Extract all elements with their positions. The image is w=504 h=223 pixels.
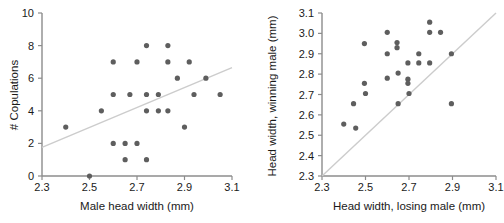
data-point (187, 59, 192, 64)
data-point (99, 108, 104, 113)
data-point (111, 59, 116, 64)
data-point (416, 60, 421, 65)
data-point (134, 59, 139, 64)
data-point (144, 92, 149, 97)
right-plot-area (252, 0, 504, 223)
data-point (394, 40, 399, 45)
data-point (123, 141, 128, 146)
data-point (427, 20, 432, 25)
data-point (394, 45, 399, 50)
trend-line (42, 68, 232, 148)
data-point (111, 92, 116, 97)
data-point (363, 91, 368, 96)
data-point (385, 76, 390, 81)
right-scatter-svg (252, 0, 504, 223)
data-point (127, 92, 132, 97)
data-point (385, 51, 390, 56)
data-point (396, 101, 401, 106)
figure-panel-pair: 10 8 6 4 2 0 2.3 2.5 2.7 2.9 3.1 Male he… (0, 0, 504, 223)
data-point (427, 30, 432, 35)
data-point (218, 92, 223, 97)
panel-right-headwidth: 3.1 3.0 2.9 2.8 2.7 2.6 2.5 2.4 2.3 2.3 … (252, 0, 504, 223)
data-point (427, 60, 432, 65)
data-point (438, 30, 443, 35)
data-point (111, 141, 116, 146)
data-point (362, 41, 367, 46)
data-point (156, 92, 161, 97)
data-point (416, 51, 421, 56)
left-scatter-svg (0, 0, 252, 223)
data-point (144, 108, 149, 113)
data-point (87, 173, 92, 178)
data-point (165, 108, 170, 113)
data-point (182, 125, 187, 130)
data-point (449, 51, 454, 56)
data-point (63, 125, 68, 130)
data-point (203, 76, 208, 81)
left-plot-area (0, 0, 252, 223)
data-point (405, 60, 410, 65)
data-point (362, 81, 367, 86)
data-point (134, 141, 139, 146)
data-point (156, 108, 161, 113)
data-point (449, 101, 454, 106)
data-point (165, 43, 170, 48)
data-point (191, 92, 196, 97)
data-point (144, 157, 149, 162)
data-point (123, 157, 128, 162)
data-point (406, 91, 411, 96)
data-point (341, 121, 346, 126)
data-point (144, 43, 149, 48)
data-point (385, 30, 390, 35)
panel-left-copulations: 10 8 6 4 2 0 2.3 2.5 2.7 2.9 3.1 Male he… (0, 0, 252, 223)
data-point (405, 81, 410, 86)
data-point (396, 71, 401, 76)
data-point (353, 126, 358, 131)
data-point (175, 76, 180, 81)
data-point (351, 101, 356, 106)
data-point (165, 59, 170, 64)
